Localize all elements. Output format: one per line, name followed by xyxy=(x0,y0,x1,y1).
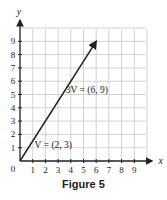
y-tick-label: 6 xyxy=(11,76,16,86)
y-tick-label: 5 xyxy=(11,90,16,100)
x-tick-label: 3 xyxy=(56,165,61,175)
origin-label: 0 xyxy=(11,164,16,174)
y-tick-label: 8 xyxy=(11,50,16,60)
y-tick-label: 7 xyxy=(11,63,16,73)
x-tick-label: 5 xyxy=(81,165,86,175)
x-tick-label: 2 xyxy=(43,165,48,175)
y-tick-label: 2 xyxy=(11,129,16,139)
figure-caption: Figure 5 xyxy=(0,178,167,190)
x-tick-label: 8 xyxy=(119,165,124,175)
x-tick-label: 4 xyxy=(69,165,74,175)
vector-3v-label: 3V = (6, 9) xyxy=(66,85,108,96)
x-tick-label: 9 xyxy=(132,165,137,175)
y-axis-label: y xyxy=(16,6,22,17)
x-tick-label: 1 xyxy=(30,165,35,175)
y-tick-label: 1 xyxy=(11,143,16,153)
y-tick-label: 4 xyxy=(11,103,16,113)
vector-plot: xy01234567891234567893V = (6, 9)V = (2, … xyxy=(0,0,167,200)
x-tick-label: 7 xyxy=(107,165,112,175)
y-tick-label: 9 xyxy=(11,36,16,46)
y-tick-label: 3 xyxy=(11,116,16,126)
x-axis-label: x xyxy=(157,155,163,166)
x-tick-label: 6 xyxy=(94,165,99,175)
vector-v-label: V = (2, 3) xyxy=(35,140,72,151)
